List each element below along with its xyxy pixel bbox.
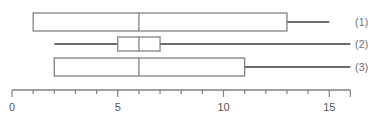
box-plot-figure: (1)(2)(3) 051015 — [0, 0, 381, 127]
series-label-1: (1) — [355, 17, 368, 28]
series-label-3: (3) — [355, 62, 368, 73]
box-plot-row-3 — [54, 58, 350, 76]
axis-tick-label-0: 0 — [9, 102, 15, 113]
axis-tick-label-15: 15 — [323, 102, 335, 113]
series-label-2: (2) — [355, 39, 368, 50]
axis-tick-label-5: 5 — [115, 102, 121, 113]
box-plot-row-2 — [54, 37, 350, 51]
axis-tick-label-10: 10 — [217, 102, 229, 113]
box-3 — [54, 58, 244, 76]
box-1 — [33, 13, 287, 31]
box-plot-row-1 — [33, 13, 329, 31]
